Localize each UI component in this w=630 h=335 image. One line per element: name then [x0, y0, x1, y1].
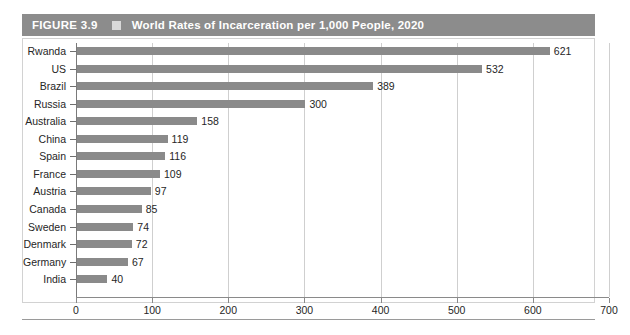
figure-number-label: FIGURE 3.9: [32, 19, 98, 31]
bar: [77, 187, 151, 195]
figure-header-bar: FIGURE 3.9 World Rates of Incarceration …: [22, 14, 595, 36]
x-axis-tick: [228, 298, 229, 303]
bar: [77, 82, 373, 90]
x-axis-tick: [609, 298, 610, 303]
y-axis-category-label: Austria: [23, 186, 66, 197]
bar: [77, 205, 142, 213]
y-axis-category-label: US: [23, 64, 66, 75]
x-axis-line: [76, 297, 609, 298]
x-axis-tick: [533, 298, 534, 303]
y-axis-category-label: Australia: [23, 116, 66, 127]
bar-value-label: 74: [137, 222, 149, 233]
bar-value-label: 40: [111, 274, 123, 285]
bar: [77, 47, 550, 55]
bar-value-label: 109: [164, 169, 182, 180]
y-axis-category-label: Brazil: [23, 81, 66, 92]
y-axis-category-label: Russia: [23, 99, 66, 110]
bar-value-label: 119: [172, 134, 189, 145]
bar-value-label: 85: [146, 204, 158, 215]
x-axis-tick-label: 200: [208, 305, 248, 316]
bar-value-label: 158: [201, 116, 219, 127]
y-axis-category-label: India: [23, 274, 66, 285]
chart-plot-frame: RwandaUSBrazilRussiaAustraliaChinaSpainF…: [22, 38, 595, 303]
chart-plot-area: RwandaUSBrazilRussiaAustraliaChinaSpainF…: [23, 39, 596, 304]
x-axis-tick: [76, 298, 77, 303]
bar: [77, 100, 305, 108]
x-axis-tick-label: 700: [589, 305, 629, 316]
y-axis-category-label: China: [23, 134, 66, 145]
bar-value-label: 532: [486, 64, 504, 75]
bar: [77, 117, 197, 125]
y-axis-category-label: Germany: [23, 257, 66, 268]
x-axis-tick: [457, 298, 458, 303]
y-axis-category-label: Denmark: [23, 239, 66, 250]
gridline: [609, 43, 610, 297]
x-axis-tick-label: 400: [361, 305, 401, 316]
gridline: [533, 43, 534, 297]
bar-value-label: 97: [155, 186, 167, 197]
x-axis-tick-label: 0: [56, 305, 96, 316]
bar: [77, 152, 165, 160]
bar-value-label: 116: [169, 151, 186, 162]
x-axis-tick: [381, 298, 382, 303]
x-axis-tick: [152, 298, 153, 303]
bar-value-label: 67: [132, 257, 144, 268]
y-axis-category-label: Canada: [23, 204, 66, 215]
bar-value-label: 72: [136, 239, 148, 250]
figure-container: FIGURE 3.9 World Rates of Incarceration …: [0, 0, 630, 335]
x-axis-tick-label: 100: [132, 305, 172, 316]
square-bullet-icon: [112, 21, 121, 30]
y-axis-category-label: France: [23, 169, 66, 180]
y-axis-category-label: Sweden: [23, 222, 66, 233]
bar-value-label: 300: [309, 99, 327, 110]
bar: [77, 135, 168, 143]
figure-title: World Rates of Incarceration per 1,000 P…: [132, 19, 425, 31]
x-axis-tick-label: 500: [437, 305, 477, 316]
y-axis-category-label: Rwanda: [23, 46, 66, 57]
bar: [77, 170, 160, 178]
figure-footer-rule: [22, 319, 595, 320]
bar: [77, 240, 132, 248]
x-axis-tick-label: 300: [284, 305, 324, 316]
bar-value-label: 389: [377, 81, 395, 92]
x-axis-tick: [304, 298, 305, 303]
bar: [77, 275, 107, 283]
gridline: [457, 43, 458, 297]
x-axis-tick-label: 600: [513, 305, 553, 316]
bar-value-label: 621: [554, 46, 572, 57]
bar: [77, 223, 133, 231]
y-axis-category-label: Spain: [23, 151, 66, 162]
bar: [77, 65, 482, 73]
bar: [77, 258, 128, 266]
